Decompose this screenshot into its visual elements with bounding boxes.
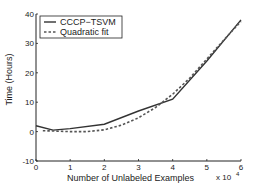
chart: 0123456-10010203040Number of Unlabeled E… [0, 0, 255, 192]
y-tick-label: 30 [25, 39, 34, 48]
x-tick-label: 1 [68, 163, 73, 172]
y-tick-label: 20 [25, 69, 34, 78]
legend-label-quadratic-fit: Quadratic fit [60, 27, 109, 37]
x-tick-label: 3 [136, 163, 141, 172]
x-tick-label: 4 [170, 163, 175, 172]
y-tick-label: 40 [25, 10, 34, 19]
x-tick-label: 5 [205, 163, 210, 172]
x-exponent-label: x 10 [216, 173, 232, 182]
y-axis-label: Time (Hours) [4, 53, 14, 105]
y-tick-label: -10 [22, 157, 34, 166]
x-axis-label: Number of Unlabeled Examples [67, 173, 195, 183]
x-tick-label: 6 [239, 163, 244, 172]
x-tick-label: 0 [34, 163, 39, 172]
x-tick-label: 2 [102, 163, 107, 172]
legend-label-cccp-tsvm: CCCP−TSVM [60, 17, 116, 27]
y-tick-label: 0 [30, 128, 35, 137]
y-tick-label: 10 [25, 98, 34, 107]
